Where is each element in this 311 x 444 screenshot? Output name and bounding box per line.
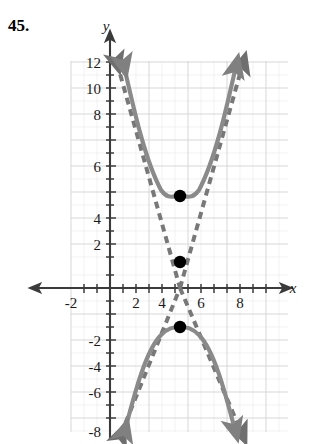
x-tick-label: 8 [236, 295, 244, 311]
y-tick-label: -2 [89, 333, 102, 349]
x-tick-label: 6 [197, 295, 205, 311]
coordinate-plane-svg: x y -2 2 4 6 8 12 10 8 6 4 2 -2 -4 -6 [0, 0, 311, 444]
y-tick-label: 8 [94, 107, 102, 123]
y-tick-label: -8 [89, 424, 102, 440]
y-tick-label: 10 [86, 81, 101, 97]
asymptote-negative-slope-lower [180, 288, 242, 434]
lower-branch-curve [125, 327, 235, 430]
x-tick-label: 4 [158, 295, 166, 311]
y-axis-label: y [101, 18, 110, 34]
y-tick-label: 4 [94, 211, 102, 227]
key-points-group [174, 190, 186, 333]
lower-vertex-point [174, 321, 186, 333]
center-point [174, 256, 186, 268]
upper-vertex-point [174, 190, 186, 202]
x-axis-label: x [289, 280, 297, 296]
figure-root: 45. [0, 0, 311, 444]
asymptote-negative-slope [117, 63, 180, 288]
y-tick-label: -6 [89, 385, 102, 401]
graph-figure: x y -2 2 4 6 8 12 10 8 6 4 2 -2 -4 -6 [0, 0, 311, 444]
grid-fine [71, 61, 288, 432]
upper-branch-curve [124, 66, 236, 197]
y-tick-label: -4 [89, 359, 102, 375]
grid-group [71, 61, 288, 432]
y-tick-label: 12 [86, 55, 101, 71]
y-tick-label: 2 [94, 237, 102, 253]
y-tick-labels: 12 10 8 6 4 2 -2 -4 -6 -8 [86, 55, 102, 440]
y-tick-label: 6 [94, 159, 102, 175]
asymptote-positive-slope-upper [180, 63, 243, 288]
x-tick-label: 2 [132, 295, 140, 311]
grid-major [71, 61, 288, 432]
x-tick-labels: -2 2 4 6 8 [65, 295, 244, 311]
x-tick-label: -2 [65, 295, 78, 311]
